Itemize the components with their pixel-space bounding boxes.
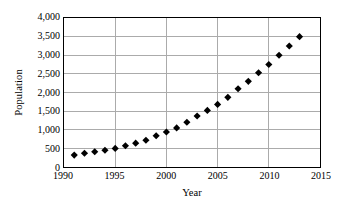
x-tick-label-1990: 1990 xyxy=(43,170,83,182)
y-tick-label-2000: 2,000 xyxy=(22,88,60,98)
data-point-2005 xyxy=(214,101,221,108)
data-point-1993 xyxy=(91,148,98,155)
x-axis-tick-labels: 199019952000200520102015 xyxy=(63,170,321,184)
y-tick-label-500: 500 xyxy=(22,144,60,154)
data-point-2010 xyxy=(265,61,272,68)
horizontal-gridlines xyxy=(64,37,320,149)
data-point-1997 xyxy=(132,140,139,147)
y-tick-label-3000: 3,000 xyxy=(22,50,60,60)
x-tick-label-2005: 2005 xyxy=(198,170,238,182)
data-point-2007 xyxy=(235,85,242,92)
data-point-1992 xyxy=(81,150,88,157)
y-tick-label-3500: 3,500 xyxy=(22,31,60,41)
data-point-1998 xyxy=(142,137,149,144)
plot-area xyxy=(63,17,321,168)
data-point-2011 xyxy=(275,52,282,59)
data-point-2003 xyxy=(194,112,201,119)
data-point-2013 xyxy=(296,33,303,40)
population-vs-year-scatter-chart: Population 05001,0001,5002,0002,5003,000… xyxy=(0,0,344,212)
data-point-1999 xyxy=(153,132,160,139)
data-point-2002 xyxy=(183,119,190,126)
data-point-2006 xyxy=(224,94,231,101)
data-point-2008 xyxy=(245,78,252,85)
data-point-2012 xyxy=(286,42,293,49)
y-tick-label-2500: 2,500 xyxy=(22,69,60,79)
data-point-2004 xyxy=(204,107,211,114)
y-tick-label-4000: 4,000 xyxy=(22,12,60,22)
data-point-2001 xyxy=(173,124,180,131)
y-axis-tick-labels: 05001,0001,5002,0002,5003,0003,5004,000 xyxy=(22,17,60,168)
plot-svg xyxy=(64,18,320,167)
y-tick-label-1500: 1,500 xyxy=(22,106,60,116)
data-point-1994 xyxy=(101,147,108,154)
y-tick-label-1000: 1,000 xyxy=(22,125,60,135)
data-point-1995 xyxy=(112,145,119,152)
data-point-2009 xyxy=(255,69,262,76)
x-tick-label-2015: 2015 xyxy=(301,170,341,182)
x-tick-label-2010: 2010 xyxy=(249,170,289,182)
x-axis-title: Year xyxy=(63,187,321,199)
data-point-1991 xyxy=(71,152,78,159)
x-tick-label-2000: 2000 xyxy=(146,170,186,182)
data-point-markers xyxy=(71,33,303,159)
x-tick-label-1995: 1995 xyxy=(95,170,135,182)
